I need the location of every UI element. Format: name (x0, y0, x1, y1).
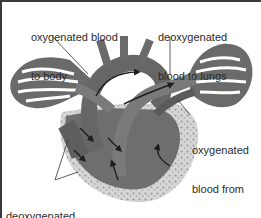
label-line: deoxygenated (6, 210, 85, 218)
heart-diagram: oxygenated blood to body deoxygenated bl… (0, 0, 261, 218)
label-oxygenated-blood-to-body: oxygenated blood to body (31, 5, 118, 109)
label-deoxygenated-blood-to-lungs: deoxygenated blood to lungs (158, 5, 227, 109)
label-line: deoxygenated (158, 31, 227, 44)
label-oxygenated-blood-from-lungs: oxygenated blood from lungs (192, 118, 249, 218)
label-line: to body (31, 70, 118, 83)
label-deoxygenated-blood-from-body: deoxygenated blood from body (6, 184, 85, 218)
label-line: blood from (192, 183, 249, 196)
label-line: oxygenated blood (31, 31, 118, 44)
label-line: blood to lungs (158, 70, 227, 83)
label-line: oxygenated (192, 144, 249, 157)
